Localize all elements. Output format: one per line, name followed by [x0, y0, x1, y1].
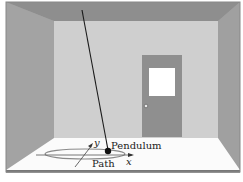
y-axis-label: y	[93, 137, 100, 148]
path-label: Path	[92, 158, 115, 169]
pendulum-label: Pendulum	[111, 140, 162, 151]
room-diagram: Pendulum Path x y	[0, 0, 243, 182]
door-window	[149, 68, 175, 96]
back-wall	[54, 21, 218, 138]
door-knob	[144, 104, 148, 108]
x-axis-label: x	[126, 156, 132, 167]
